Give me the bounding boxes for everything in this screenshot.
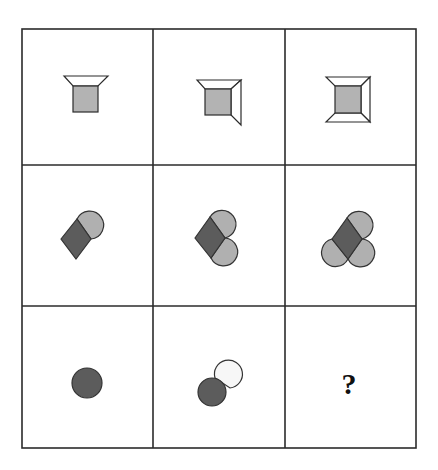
question-mark: ? <box>342 367 357 400</box>
square-shape <box>335 86 361 113</box>
cell-r3c3[interactable]: ? <box>342 367 357 400</box>
square-shape <box>73 86 98 112</box>
dark-circle-shape <box>198 378 226 406</box>
dark-circle-shape <box>72 368 102 398</box>
square-shape <box>205 89 231 115</box>
matrix-puzzle: ? <box>0 0 438 470</box>
cell-r3c1 <box>72 368 102 398</box>
